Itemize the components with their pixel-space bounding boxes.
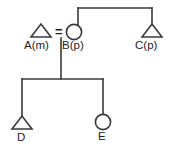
label-individual-c: C(p) <box>135 39 157 51</box>
symbol-e-female-circle <box>95 114 110 129</box>
label-individual-b: B(p) <box>62 39 84 51</box>
label-individual-a: A(m) <box>24 39 49 51</box>
symbol-c-male-triangle <box>142 24 162 37</box>
symbol-b-female-circle <box>66 24 81 39</box>
mating-equals-symbol: = <box>55 25 63 38</box>
symbol-d-male-triangle <box>12 116 32 129</box>
label-individual-e: E <box>98 130 106 142</box>
pedigree-graphics <box>0 0 171 149</box>
pedigree-diagram: = A(m) B(p) C(p) D E <box>0 0 171 149</box>
symbol-a-male-triangle <box>31 24 51 37</box>
label-individual-d: D <box>17 131 25 143</box>
